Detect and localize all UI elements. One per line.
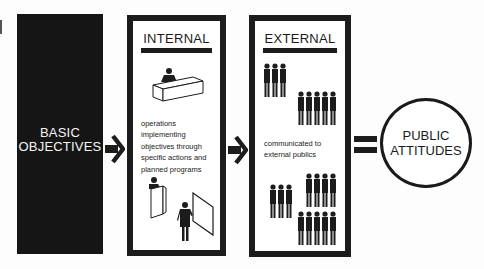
crowd-5-icon [297,211,339,247]
public-attitudes-circle: PUBLIC ATTITUDES [380,98,472,188]
internal-text-line: operations [141,118,226,129]
internal-panel: INTERNAL operations implementing objecti… [127,15,226,256]
basic-objectives-label: BASIC OBJECTIVES [17,126,103,154]
external-title: EXTERNAL [255,31,345,46]
external-text-line: communicated to [264,138,349,149]
crowd-3-icon [269,184,295,220]
internal-title-bar [141,48,212,53]
crowd-4-icon [305,173,339,209]
arrow-right-icon [228,135,248,165]
internal-text-line: implementing [141,129,226,140]
external-text-line: external publics [264,149,349,160]
desk-figure-icon [149,65,209,105]
basic-line1: BASIC [17,126,103,140]
equals-icon-top-bar [354,136,377,142]
internal-title: INTERNAL [133,31,220,46]
internal-text-line: objectives through [141,141,226,152]
crowd-3-icon [263,63,289,99]
edge-mark [0,20,2,34]
internal-text-line: planned programs [141,164,226,175]
public-attitudes-label: PUBLIC ATTITUDES [383,128,469,158]
external-panel: EXTERNAL communicated to external public… [249,15,351,257]
podium-speaker-icon [147,176,169,220]
basic-line2: OBJECTIVES [17,140,103,154]
crowd-5-icon [297,91,339,127]
internal-description: operations implementing objectives throu… [141,118,226,175]
internal-text-line: specific actions and [141,152,226,163]
result-line2: ATTITUDES [383,143,469,158]
presenter-board-icon [177,191,217,245]
arrow-right-icon [105,134,125,164]
external-description: communicated to external publics [264,138,349,161]
equals-icon-bottom-bar [354,147,377,153]
result-line1: PUBLIC [383,128,469,143]
external-title-bar [263,48,337,53]
